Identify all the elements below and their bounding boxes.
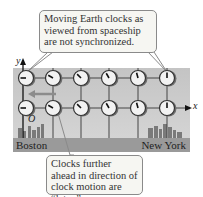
y-axis-label: y: [16, 55, 20, 66]
motion-arrow-left-icon: [28, 90, 35, 98]
clock-icon: [102, 71, 119, 87]
x-axis-label: x: [193, 100, 197, 111]
new-york-skyline-icon: [148, 124, 182, 138]
callout-bottom: Clocks further ahead in direction of clo…: [46, 155, 143, 195]
clock-icon: [160, 101, 177, 117]
clock-icon: [160, 71, 177, 87]
clock-icon: [19, 71, 36, 87]
boston-skyline-icon: [18, 124, 44, 138]
clock-icon: [74, 71, 91, 87]
x-axis-arrowhead-icon: [185, 105, 192, 111]
clock-icon: [131, 101, 148, 117]
clock-icon: [46, 71, 63, 87]
clock-icon: [74, 101, 91, 117]
callout-top: Moving Earth clocks as viewed from space…: [39, 10, 157, 53]
clock-icon: [131, 71, 148, 87]
clock-icon: [46, 101, 63, 117]
y-axis-arrowhead-icon: [20, 58, 26, 65]
origin-label: O: [28, 113, 35, 124]
clock-icon: [102, 101, 119, 117]
